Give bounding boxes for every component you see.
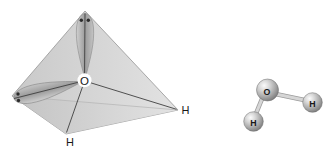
lone-pair-axis-top xyxy=(85,14,86,79)
ball-stick-oxygen-label: O xyxy=(264,87,271,97)
figure-svg: O H H O H H xyxy=(0,0,332,155)
ball-and-stick-model: O H H xyxy=(244,79,323,131)
electron-dot-top-2 xyxy=(87,19,90,22)
electron-dot-top-1 xyxy=(80,19,83,22)
water-molecule-figure: O H H O H H xyxy=(0,0,332,155)
oxygen-symbol: O xyxy=(80,75,89,87)
electron-dot-left-1 xyxy=(16,92,19,95)
hydrogen-label-right: H xyxy=(182,104,190,116)
electron-dot-left-2 xyxy=(17,99,20,102)
ball-stick-hydrogen-right-label: H xyxy=(309,99,315,109)
hydrogen-label-bottom: H xyxy=(66,136,74,148)
ball-stick-hydrogen-left-label: H xyxy=(250,118,256,128)
tetrahedral-orbital-model: O H H xyxy=(12,11,190,148)
